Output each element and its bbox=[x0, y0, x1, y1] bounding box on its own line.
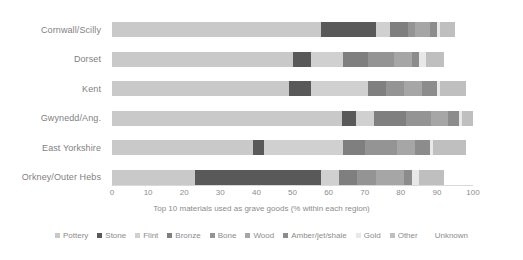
bar-segment bbox=[311, 52, 343, 67]
bar-segment bbox=[343, 140, 365, 155]
legend-item[interactable]: Bone bbox=[210, 231, 237, 240]
y-axis-label: Cornwall/Scilly bbox=[0, 22, 107, 37]
bar-segment bbox=[394, 52, 412, 67]
bar-row bbox=[112, 22, 473, 37]
bar-row bbox=[112, 81, 473, 96]
bar-segment bbox=[264, 140, 343, 155]
bar-segment bbox=[415, 22, 429, 37]
legend-swatch-icon bbox=[167, 233, 172, 238]
x-axis-tick-label: 70 bbox=[360, 188, 369, 197]
bar-segment bbox=[422, 81, 436, 96]
x-axis-tick-label: 90 bbox=[432, 188, 441, 197]
y-axis-label: Kent bbox=[0, 81, 107, 96]
legend-swatch-icon bbox=[55, 233, 60, 238]
legend-label: Bone bbox=[218, 231, 237, 240]
bar-segment bbox=[408, 22, 415, 37]
bar-row bbox=[112, 111, 473, 126]
legend-item[interactable]: Gold bbox=[356, 231, 381, 240]
legend-swatch-icon bbox=[97, 233, 102, 238]
legend-item[interactable]: Pottery bbox=[55, 231, 88, 240]
bar-segment bbox=[356, 111, 374, 126]
bar-segment bbox=[397, 140, 415, 155]
bar-segment bbox=[415, 140, 429, 155]
x-axis-tick-label: 20 bbox=[180, 188, 189, 197]
bar-segment bbox=[440, 22, 454, 37]
bar-segment bbox=[112, 140, 253, 155]
legend-item[interactable]: Stone bbox=[97, 231, 126, 240]
legend-swatch-icon bbox=[356, 233, 361, 238]
bar-segment bbox=[433, 140, 465, 155]
bar-segment bbox=[406, 111, 431, 126]
bar-segment bbox=[444, 52, 473, 67]
bar-segment bbox=[440, 81, 465, 96]
legend-label: Wood bbox=[253, 231, 274, 240]
legend-label: Gold bbox=[364, 231, 381, 240]
legend-label: Other bbox=[398, 231, 418, 240]
bar-segment bbox=[419, 170, 444, 185]
bar-segment bbox=[466, 140, 473, 155]
y-axis-label: East Yorkshire bbox=[0, 140, 107, 155]
bar-segment bbox=[462, 111, 473, 126]
bar-segment bbox=[343, 52, 368, 67]
bar-row bbox=[112, 140, 473, 155]
legend-item[interactable]: Flint bbox=[135, 231, 158, 240]
bar-segment bbox=[444, 170, 473, 185]
y-axis-label: Gwynedd/Ang. bbox=[0, 111, 107, 126]
bar-segment bbox=[293, 52, 311, 67]
x-axis-tick-label: 60 bbox=[324, 188, 333, 197]
bar-segment bbox=[253, 140, 264, 155]
legend-swatch-icon bbox=[135, 233, 140, 238]
legend-swatch-icon bbox=[210, 233, 215, 238]
legend-item[interactable]: Bronze bbox=[167, 231, 200, 240]
bar-segment bbox=[368, 52, 393, 67]
bar-segment bbox=[311, 81, 369, 96]
bar-segment bbox=[357, 170, 375, 185]
y-axis-category-labels: Cornwall/ScillyDorsetKentGwynedd/Ang.Eas… bbox=[0, 22, 107, 185]
bar-segment bbox=[419, 52, 426, 67]
bar-segment bbox=[376, 170, 405, 185]
bar-segment bbox=[404, 170, 411, 185]
bar-row bbox=[112, 52, 473, 67]
y-axis-label: Dorset bbox=[0, 52, 107, 67]
legend-label: Stone bbox=[105, 231, 126, 240]
bar-segment bbox=[412, 170, 419, 185]
x-axis-tick-label: 0 bbox=[110, 188, 114, 197]
bar-segment bbox=[112, 52, 293, 67]
bar-segment bbox=[390, 22, 408, 37]
legend-swatch-icon bbox=[390, 233, 395, 238]
x-axis-title: Top 10 materials used as grave goods (% … bbox=[0, 204, 523, 213]
bar-segment bbox=[374, 111, 406, 126]
bar-segment bbox=[195, 170, 321, 185]
bar-segment bbox=[112, 111, 342, 126]
stacked-bar-chart: Cornwall/ScillyDorsetKentGwynedd/Ang.Eas… bbox=[0, 0, 523, 260]
legend-label: Bronze bbox=[175, 231, 200, 240]
bar-segment bbox=[426, 52, 444, 67]
x-axis-tick-label: 100 bbox=[466, 188, 479, 197]
bar-segment bbox=[339, 170, 357, 185]
legend-label: Pottery bbox=[63, 231, 88, 240]
legend-label: Unknown bbox=[435, 231, 468, 240]
bar-segment bbox=[466, 81, 473, 96]
x-axis-tick-label: 30 bbox=[216, 188, 225, 197]
x-axis-tick-label: 50 bbox=[288, 188, 297, 197]
legend-label: Amber/jet/shale bbox=[291, 231, 347, 240]
legend-item[interactable]: Other bbox=[390, 231, 418, 240]
legend-item[interactable]: Amber/jet/shale bbox=[283, 231, 347, 240]
x-axis-tick-label: 10 bbox=[144, 188, 153, 197]
legend-swatch-icon bbox=[283, 233, 288, 238]
bar-segment bbox=[430, 22, 437, 37]
bar-segment bbox=[404, 81, 422, 96]
bar-segment bbox=[368, 81, 386, 96]
bar-segment bbox=[412, 52, 419, 67]
legend-item[interactable]: Wood bbox=[245, 231, 274, 240]
bar-rows bbox=[112, 22, 473, 185]
bar-segment bbox=[386, 81, 404, 96]
bar-segment bbox=[431, 111, 449, 126]
bar-segment bbox=[342, 111, 356, 126]
bar-segment bbox=[112, 22, 321, 37]
x-axis-line bbox=[112, 185, 473, 186]
bar-segment bbox=[365, 140, 397, 155]
bar-segment bbox=[321, 170, 339, 185]
legend-label: Flint bbox=[143, 231, 158, 240]
legend-item[interactable]: Unknown bbox=[427, 231, 468, 240]
